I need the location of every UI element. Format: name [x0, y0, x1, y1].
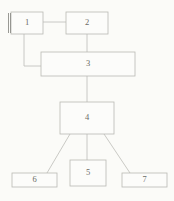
- node-5-label: 5: [86, 167, 90, 177]
- node-box-2[interactable]: 2: [66, 12, 108, 34]
- diagram-canvas: 1 2 3 4 5 6 7: [0, 0, 174, 201]
- node-box-3[interactable]: 3: [41, 52, 135, 76]
- edge-4-to-7: [104, 134, 130, 173]
- node-6-label: 6: [32, 174, 36, 184]
- node-7-label: 7: [142, 174, 146, 184]
- node-2-label: 2: [85, 17, 89, 27]
- node-3-label: 3: [86, 58, 90, 68]
- node-box-4[interactable]: 4: [60, 102, 114, 134]
- node-box-7[interactable]: 7: [122, 173, 167, 187]
- edge-4-to-6: [47, 134, 70, 173]
- node-box-5[interactable]: 5: [70, 160, 106, 186]
- node-box-6[interactable]: 6: [12, 173, 57, 187]
- edge-layer: [24, 22, 130, 173]
- edge-1-to-3: [24, 34, 41, 66]
- diagram-svg: 1 2 3 4 5 6 7: [0, 0, 174, 201]
- node-box-1[interactable]: 1: [9, 12, 44, 34]
- node-1-label: 1: [25, 17, 29, 27]
